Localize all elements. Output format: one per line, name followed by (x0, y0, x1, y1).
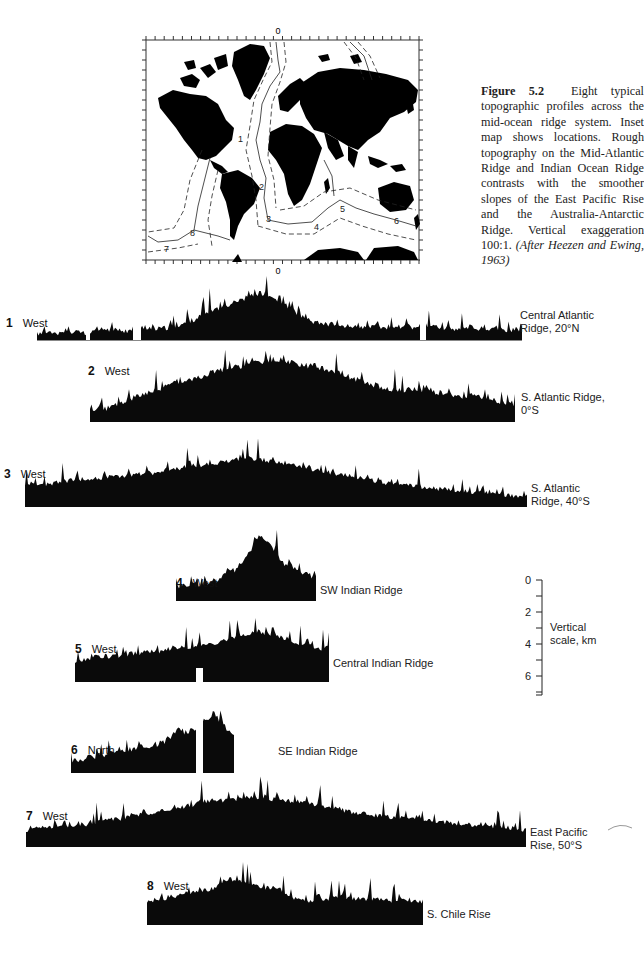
profile-4-label: 4West (176, 573, 218, 591)
inset-map: 0 0 12345678 (118, 0, 428, 290)
profile-2-label: 2West (88, 361, 130, 379)
ridge-name-line1: Central Indian Ridge (333, 657, 433, 670)
ridge-name-line1: SW Indian Ridge (320, 584, 403, 597)
profile-3-ridge-name: S. AtlanticRidge, 40°S (531, 482, 590, 508)
profile-direction: West (23, 317, 48, 329)
ridge-name-line2: Ridge, 20°N (520, 322, 594, 335)
ridge-name-line1: East Pacific (530, 826, 587, 839)
continents (158, 44, 420, 262)
profile-7-label: 7West (26, 806, 68, 824)
profile-number: 1 (6, 316, 13, 330)
profile-3-label: 3West (4, 464, 46, 482)
ridge-name-line1: S. Chile Rise (427, 908, 491, 921)
profile-2-graphic (90, 314, 515, 422)
profile-direction: West (193, 577, 218, 589)
map-top-zero-label: 0 (275, 26, 280, 36)
ridge-name-line2: 0°S (521, 404, 605, 417)
caption-text: Eight typical topographic profiles acros… (481, 84, 644, 252)
profile-direction: West (21, 468, 46, 480)
world-map-graphic: 0 0 12345678 (118, 0, 428, 290)
profile-direction: West (92, 643, 117, 655)
figure-number: Figure 5.2 (481, 84, 544, 98)
map-marker-8: 8 (190, 228, 195, 238)
map-marker-2: 2 (259, 182, 264, 192)
profile-5-label: 5West (75, 639, 117, 657)
ridge-name-line1: S. Atlantic Ridge, (521, 391, 605, 404)
profile-4-ridge-name: SW Indian Ridge (320, 584, 403, 597)
map-marker-5: 5 (340, 204, 345, 214)
profile-1-label: 1West (6, 313, 48, 331)
map-marker-1: 1 (238, 134, 243, 144)
map-marker-3: 3 (266, 214, 271, 224)
scale-tick-6: 6 (525, 670, 531, 682)
profile-2-ridge-name: S. Atlantic Ridge,0°S (521, 391, 605, 417)
scale-label-line2: scale, km (550, 634, 596, 647)
profile-number: 2 (88, 364, 95, 378)
scale-label-line1: Vertical (550, 621, 596, 634)
scale-tick-2: 2 (525, 606, 531, 618)
map-marker-4: 4 (314, 222, 319, 232)
profile-number: 8 (147, 879, 154, 893)
profile-1-ridge-name: Central AtlanticRidge, 20°N (520, 309, 594, 335)
ridge-name-line2: Rise, 50°S (530, 839, 587, 852)
profile-direction: West (43, 810, 68, 822)
profile-7-ridge-name: East PacificRise, 50°S (530, 826, 587, 852)
scale-tick-4: 4 (525, 638, 531, 650)
map-marker-6: 6 (394, 216, 399, 226)
profile-direction: West (164, 880, 189, 892)
profile-5-ridge-name: Central Indian Ridge (333, 657, 433, 670)
profile-8-label: 8West (147, 876, 189, 894)
profile-direction: West (105, 365, 130, 377)
figure-caption: Figure 5.2 Eight typical topographic pro… (481, 84, 644, 269)
scale-tick-0: 0 (525, 575, 531, 586)
profile-number: 4 (176, 576, 183, 590)
ridge-name-line1: S. Atlantic (531, 482, 590, 495)
profile-8-ridge-name: S. Chile Rise (427, 908, 491, 921)
ridge-name-line1: Central Atlantic (520, 309, 594, 322)
profile-number: 5 (75, 642, 82, 656)
vertical-scale: 0246 Vertical scale, km (525, 575, 635, 705)
profile-7-graphic (26, 755, 526, 847)
profile-number: 3 (4, 467, 11, 481)
stray-mark (606, 820, 636, 834)
profile-number: 7 (26, 809, 33, 823)
ridge-name-line2: Ridge, 40°S (531, 495, 590, 508)
